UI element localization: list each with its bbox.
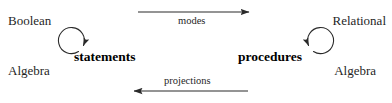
- right-node-top-word: Relational: [333, 14, 386, 27]
- edge-label-modes: modes: [178, 16, 205, 27]
- left-node-top-word: Boolean: [8, 14, 51, 27]
- self-loop-procedures: [308, 28, 334, 54]
- left-node-center-label: statements: [74, 50, 135, 64]
- diagram-canvas: Boolean Algebra statements Relational Al…: [0, 0, 392, 103]
- right-node-center-label: procedures: [238, 50, 302, 64]
- edge-label-projections: projections: [164, 76, 211, 87]
- left-node-bottom-word: Algebra: [8, 64, 50, 77]
- right-node-bottom-word: Algebra: [334, 64, 376, 77]
